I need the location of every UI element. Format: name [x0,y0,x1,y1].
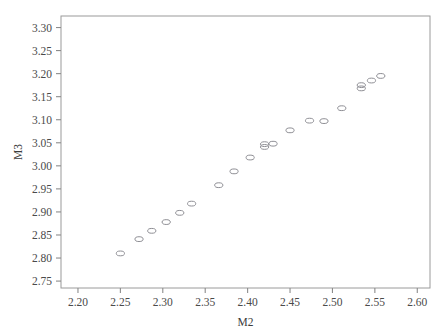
data-point [116,251,124,256]
scatter-chart: 2.752.802.852.902.953.003.053.103.153.20… [0,0,447,334]
data-point [246,155,254,160]
data-point [176,210,184,215]
data-point [148,228,156,233]
plot-frame [61,16,430,288]
plot-area-svg: 2.752.802.852.902.953.003.053.103.153.20… [0,0,447,334]
x-tick-label: 2.60 [407,296,427,308]
y-tick-label: 3.05 [32,137,52,149]
data-point [338,106,346,111]
data-point [269,141,277,146]
x-tick-label: 2.25 [110,296,130,308]
data-point [230,169,238,174]
data-point [305,118,313,123]
data-point [286,128,294,133]
x-axis-title: M2 [238,316,254,328]
data-point [367,78,375,83]
y-tick-label: 3.10 [32,114,52,126]
x-tick-label: 2.20 [68,296,88,308]
x-tick-label: 2.30 [153,296,173,308]
data-point [135,237,143,242]
y-tick-label: 2.85 [32,229,52,241]
x-tick-label: 2.35 [195,296,215,308]
data-point [162,220,170,225]
x-axis-ticks: 2.202.252.302.352.402.452.502.552.60 [68,288,428,308]
data-point [320,119,328,124]
data-point [357,83,365,88]
data-point [215,183,223,188]
y-tick-label: 2.90 [32,206,52,218]
y-tick-label: 3.15 [32,91,52,103]
y-axis-title: M3 [12,144,24,160]
data-point [377,74,385,79]
y-tick-label: 3.00 [32,160,52,172]
y-tick-label: 3.25 [32,45,52,57]
x-tick-label: 2.40 [238,296,258,308]
y-tick-label: 2.80 [32,252,52,264]
y-axis-ticks: 2.752.802.852.902.953.003.053.103.153.20… [32,22,61,288]
x-tick-label: 2.50 [322,296,342,308]
y-tick-label: 2.75 [32,275,52,287]
x-tick-label: 2.45 [280,296,300,308]
y-tick-label: 2.95 [32,183,52,195]
data-points-group [116,74,385,256]
x-tick-label: 2.55 [365,296,385,308]
data-point [188,201,196,206]
y-tick-label: 3.20 [32,68,52,80]
y-tick-label: 3.30 [32,22,52,34]
